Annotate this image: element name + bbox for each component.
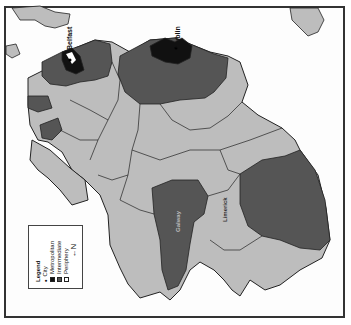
north-arrow-icon: ←N [69, 244, 78, 258]
island [290, 8, 324, 36]
label-dublin: Dublin [174, 26, 181, 48]
metropolitan-swatch-icon [50, 277, 55, 282]
legend-item-city: • City [42, 241, 49, 282]
label-d: Limerick [222, 197, 228, 222]
label-c: Galway [175, 211, 181, 232]
legend-item-metropolitan: Metropolitan [49, 241, 56, 282]
city-dot-belfast [69, 59, 72, 62]
legend: Legend • City Metropolitan Intermediate … [28, 225, 83, 289]
intermediate-swatch-icon [57, 277, 62, 282]
island [12, 6, 70, 28]
legend-title: Legend [35, 241, 42, 282]
city-dot-icon: • [42, 280, 49, 282]
island [6, 44, 20, 58]
periphery-swatch-icon [64, 277, 69, 282]
label-belfast: Belfast [66, 27, 73, 50]
legend-item-intermediate: Intermediate [56, 241, 63, 282]
